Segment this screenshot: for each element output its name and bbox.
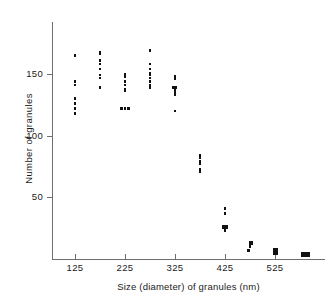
data-point — [124, 107, 126, 109]
data-point — [199, 157, 201, 159]
data-point — [275, 253, 277, 255]
data-point — [247, 249, 249, 251]
data-point — [174, 78, 176, 80]
x-tick-label-125: 125 — [55, 262, 95, 273]
data-point — [74, 80, 76, 82]
data-point — [149, 80, 151, 82]
data-point — [174, 94, 176, 96]
data-point — [99, 68, 101, 70]
x-axis-line — [52, 259, 325, 260]
x-tick-label-325: 325 — [155, 262, 195, 273]
data-point — [74, 84, 76, 86]
data-point — [199, 170, 201, 172]
data-point — [99, 63, 101, 65]
data-point — [99, 53, 101, 55]
data-point — [74, 112, 76, 114]
data-point — [124, 75, 126, 77]
x-tick-label-525: 525 — [255, 262, 295, 273]
y-tick-150 — [47, 74, 53, 75]
data-point — [249, 245, 251, 247]
data-point — [149, 77, 151, 79]
data-point — [120, 107, 122, 109]
data-point — [99, 59, 101, 61]
data-point — [74, 54, 76, 56]
data-point — [199, 163, 201, 165]
data-point — [74, 102, 76, 104]
x-tick-225 — [125, 254, 126, 259]
data-point — [124, 84, 126, 86]
y-tick-50 — [47, 197, 53, 198]
y-tick-100 — [47, 136, 53, 137]
data-point — [149, 86, 151, 88]
y-axis-title: Number of granules — [23, 59, 34, 219]
data-point — [99, 86, 101, 88]
data-point — [149, 49, 151, 51]
x-tick-label-425: 425 — [205, 262, 245, 273]
x-axis-title: Size (diameter) of granules (nm) — [52, 281, 325, 292]
plot-area: 50100150 125225325425525 Number of granu… — [0, 0, 336, 304]
x-tick-label-225: 225 — [105, 262, 145, 273]
data-point — [99, 77, 101, 79]
data-point — [174, 110, 176, 112]
data-point — [224, 207, 226, 209]
data-point — [74, 97, 76, 99]
data-point — [224, 229, 226, 231]
data-point — [124, 80, 126, 82]
data-point — [149, 68, 151, 70]
data-point — [74, 107, 76, 109]
x-tick-425 — [225, 254, 226, 259]
x-tick-125 — [75, 254, 76, 259]
data-point — [124, 90, 126, 92]
data-point — [307, 254, 309, 256]
data-point — [224, 212, 226, 214]
x-tick-325 — [175, 254, 176, 259]
scatter-plot-figure: 50100150 125225325425525 Number of granu… — [0, 0, 336, 304]
data-point — [149, 63, 151, 65]
y-axis-line — [52, 22, 53, 260]
data-point — [127, 107, 129, 109]
